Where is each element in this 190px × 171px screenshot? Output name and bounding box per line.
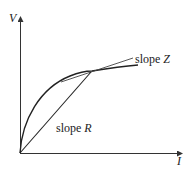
slope-z-symbol: Z	[163, 52, 170, 66]
vi-diagram: V I slope Z slope R	[0, 0, 190, 171]
slope-z-label: slope Z	[135, 52, 170, 66]
slope-r-label: slope R	[56, 121, 92, 135]
slope-r-prefix: slope	[56, 121, 84, 135]
slope-z-prefix: slope	[135, 52, 163, 66]
x-axis-label: I	[176, 154, 182, 168]
y-axis-label: V	[9, 11, 18, 25]
slope-r-symbol: R	[83, 121, 92, 135]
diagram-canvas: V I slope Z slope R	[0, 0, 190, 171]
vi-curve	[20, 65, 138, 153]
tangent-line	[61, 58, 133, 82]
